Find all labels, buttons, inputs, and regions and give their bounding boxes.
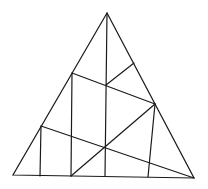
right-inner-vertical-line [148, 104, 155, 177]
interior-segments [40, 13, 194, 178]
upper-transversal-line [72, 73, 155, 104]
center-vertical-line [105, 13, 107, 176]
subdivided-triangle-figure [0, 0, 208, 189]
left-inner-vertical-line [71, 73, 72, 176]
far-left-vertical-line [40, 126, 41, 176]
upper-right-short-line [106, 63, 134, 85]
